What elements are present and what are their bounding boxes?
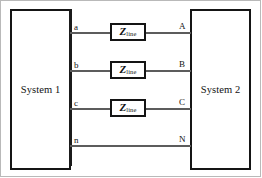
impedance-label-phase-b: Zline <box>120 64 137 76</box>
terminal-label-n: n <box>74 136 79 145</box>
system-2-block: System 2 <box>190 9 251 170</box>
terminal-label-B: B <box>179 60 185 69</box>
conductor-neutral <box>70 145 191 147</box>
system-1-block: System 1 <box>10 9 71 170</box>
impedance-subscript: line <box>126 106 136 113</box>
impedance-subscript: line <box>126 30 136 37</box>
impedance-box-phase-b: Zline <box>110 61 146 79</box>
power-system-diagram: System 1 System 2 a A b B c C n N Zline … <box>0 0 262 178</box>
impedance-label-phase-c: Zline <box>120 102 137 114</box>
impedance-label-phase-a: Zline <box>120 26 137 38</box>
terminal-label-A: A <box>179 22 186 31</box>
system-1-label: System 1 <box>21 84 61 95</box>
impedance-subscript: line <box>126 68 136 75</box>
terminal-label-N: N <box>179 135 186 144</box>
terminal-label-c: c <box>74 99 78 108</box>
system-2-label: System 2 <box>201 84 241 95</box>
terminal-label-b: b <box>74 61 79 70</box>
terminal-label-C: C <box>179 98 185 107</box>
impedance-box-phase-c: Zline <box>110 99 146 117</box>
terminal-label-a: a <box>74 23 78 32</box>
impedance-box-phase-a: Zline <box>110 23 146 41</box>
